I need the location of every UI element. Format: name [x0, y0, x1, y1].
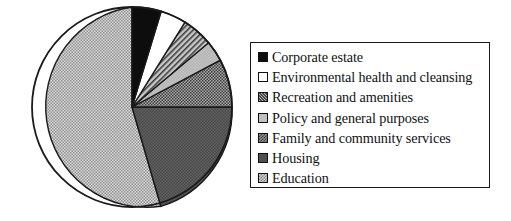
pie-chart-plot-area	[22, 2, 242, 218]
legend-label-housing: Housing	[272, 148, 319, 168]
legend-item-housing[interactable]: Housing	[258, 148, 489, 168]
legend-swatch-environmental-health-and-cleansing	[258, 72, 268, 82]
pie-chart-figure: Corporate estate Environmental health an…	[0, 0, 511, 221]
legend-label-family-and-community-services: Family and community services	[272, 128, 451, 148]
legend-swatch-family-and-community-services	[258, 133, 268, 143]
legend-label-education: Education	[272, 168, 329, 188]
legend-swatch-policy-and-general-purposes	[258, 113, 268, 123]
pie-chart-svg	[22, 2, 242, 218]
legend-swatch-education	[258, 173, 268, 183]
legend-item-recreation-and-amenities[interactable]: Recreation and amenities	[258, 87, 489, 107]
legend-item-environmental-health-and-cleansing[interactable]: Environmental health and cleansing	[258, 67, 489, 87]
legend-item-family-and-community-services[interactable]: Family and community services	[258, 128, 489, 148]
legend-swatch-corporate-estate	[258, 52, 268, 62]
legend-label-environmental-health-and-cleansing: Environmental health and cleansing	[272, 67, 472, 87]
legend-item-corporate-estate[interactable]: Corporate estate	[258, 47, 489, 67]
chart-legend: Corporate estate Environmental health an…	[250, 42, 490, 188]
legend-label-corporate-estate: Corporate estate	[272, 47, 363, 67]
legend-item-policy-and-general-purposes[interactable]: Policy and general purposes	[258, 108, 489, 128]
legend-label-policy-and-general-purposes: Policy and general purposes	[272, 108, 429, 128]
legend-label-recreation-and-amenities: Recreation and amenities	[272, 87, 413, 107]
legend-swatch-recreation-and-amenities	[258, 92, 268, 102]
legend-swatch-housing	[258, 153, 268, 163]
legend-item-education[interactable]: Education	[258, 168, 489, 188]
